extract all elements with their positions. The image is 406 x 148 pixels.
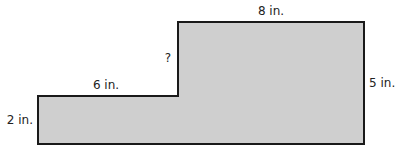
label-right-5in: 5 in.: [369, 76, 395, 90]
label-unknown-side: ?: [165, 51, 171, 65]
label-step-top-6in: 6 in.: [93, 78, 119, 92]
label-top-8in: 8 in.: [258, 4, 284, 18]
l-shaped-figure-diagram: 8 in. 5 in. 6 in. 2 in. ?: [0, 0, 406, 148]
label-left-2in: 2 in.: [7, 113, 33, 127]
composite-shape: [38, 22, 364, 144]
